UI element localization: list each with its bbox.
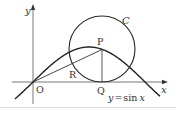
segment-op — [33, 50, 102, 83]
origin-label: O — [36, 84, 44, 95]
y-axis-arrow-icon — [31, 4, 35, 10]
curve-equation-label: y=sinx — [107, 92, 145, 103]
y-axis-label: y — [24, 5, 31, 16]
point-q-label: Q — [97, 85, 105, 96]
point-p-label: P — [97, 36, 104, 47]
sine-circle-figure: y x O P Q R C y=sinx — [0, 0, 178, 114]
eq-sign: = — [114, 92, 122, 103]
x-axis-label: x — [161, 84, 167, 95]
eq-lhs: y — [107, 92, 114, 103]
figure-svg: y x O P Q R C y=sinx — [0, 0, 178, 114]
eq-var: x — [139, 92, 145, 103]
circle-c-label: C — [122, 15, 130, 26]
eq-fn: sin — [123, 92, 137, 103]
point-r-label: R — [69, 69, 77, 80]
